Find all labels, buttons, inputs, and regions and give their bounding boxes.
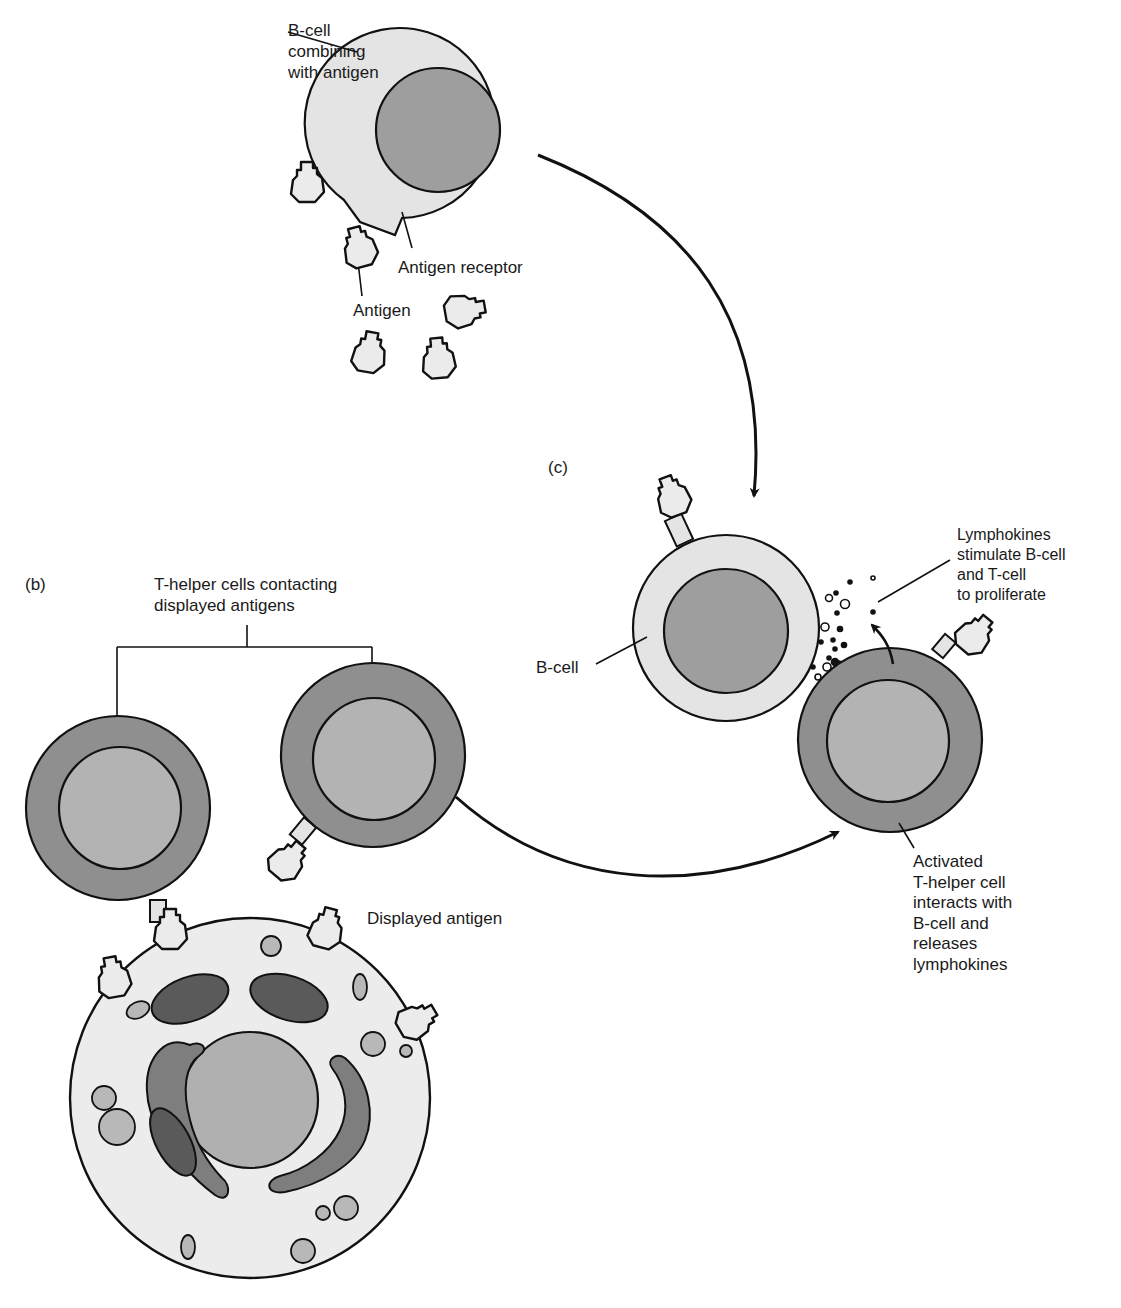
label-activated-thelper: Activated T-helper cell interacts with B… — [913, 852, 1012, 975]
label-antigen-receptor: Antigen receptor — [398, 257, 523, 278]
label-panel-c: (c) — [548, 457, 568, 478]
antigen-icon — [420, 337, 456, 380]
label-bcell-combining: B-cell combining with antigen — [288, 20, 379, 83]
antigen-icon — [94, 954, 133, 999]
leader-line — [878, 560, 950, 602]
label-antigen: Antigen — [353, 300, 411, 321]
antigen-icon — [263, 834, 314, 886]
antigen-icon — [650, 471, 695, 520]
bcell-c — [633, 514, 819, 721]
antigen-icon — [443, 291, 488, 330]
thelper-nucleus — [827, 680, 949, 802]
antigen-icon — [350, 330, 389, 375]
antigen-icon — [950, 608, 1001, 660]
arrow-top-to-c — [538, 155, 756, 496]
bcell-c-nucleus — [664, 569, 788, 693]
label-lymphokines: Lymphokines stimulate B-cell and T-cell … — [957, 525, 1065, 605]
label-bcell: B-cell — [536, 657, 579, 678]
label-thelper-contacting: T-helper cells contacting displayed anti… — [154, 574, 337, 616]
antigen-icon — [338, 223, 380, 270]
label-panel-b: (b) — [25, 574, 46, 595]
label-displayed-antigen: Displayed antigen — [367, 908, 502, 929]
bcell-top-nucleus — [376, 68, 500, 192]
arrow-b-to-c — [456, 797, 838, 876]
diagram-canvas — [0, 0, 1121, 1308]
thelper-right — [281, 663, 465, 847]
thelper-left — [26, 716, 210, 922]
